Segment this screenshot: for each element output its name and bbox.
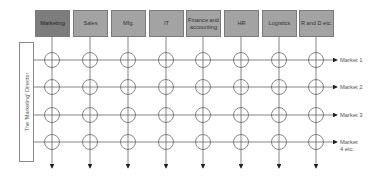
dept-label: IT: [164, 20, 169, 27]
market-2-label: Market 2: [340, 84, 363, 91]
dept-hr: HR: [224, 10, 259, 37]
dept-label: Sales: [84, 20, 98, 27]
dept-label: R and D etc.: [301, 20, 332, 27]
dept-it: IT: [149, 10, 184, 37]
market-4-label: Market 4 etc.: [340, 139, 362, 153]
dept-mfg: Mfg.: [111, 10, 146, 37]
market-3-label: Market 3: [340, 112, 363, 119]
dept-finance: Finance and accounting: [186, 10, 221, 37]
dept-marketing: Marketing: [35, 10, 70, 37]
dept-sales: Sales: [73, 10, 108, 37]
dept-rnd: R and D etc.: [299, 10, 334, 37]
dept-label: Finance and accounting: [187, 17, 220, 30]
dept-label: Logistics: [269, 20, 291, 27]
market-1-label: Market 1: [340, 57, 363, 64]
dept-label: Mfg.: [123, 20, 134, 27]
dept-label: HR: [237, 20, 245, 27]
dept-label: Marketing: [40, 20, 65, 27]
marketing-director-box: The 'Marketing' Director: [19, 42, 34, 162]
matrix-diagram: The 'Marketing' Director Marketing Sales…: [0, 0, 376, 179]
dept-logistics: Logistics: [262, 10, 297, 37]
director-label: The 'Marketing' Director: [24, 72, 30, 131]
